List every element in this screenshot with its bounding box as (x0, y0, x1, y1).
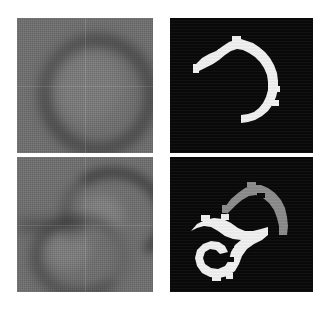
mask-white-notch-1 (201, 215, 210, 221)
mask-notch-4 (272, 100, 279, 106)
mask-white-notch-4 (226, 273, 233, 279)
column-separator (153, 18, 170, 292)
mask-shapes-svg (169, 18, 313, 153)
mask-notch-3 (273, 86, 280, 92)
mask-canvas (169, 157, 313, 292)
mask-notch-2 (232, 36, 241, 41)
mask-white-notch-2 (221, 214, 229, 220)
row-separator-right (169, 153, 313, 157)
mask-notch-1 (218, 49, 225, 54)
panel-top-left-grayscale-scan[interactable] (17, 18, 153, 153)
mask-canvas (169, 18, 313, 153)
figure-container (0, 0, 329, 311)
panel-top-right-binary-mask[interactable] (169, 18, 313, 153)
grayscale-canvas (17, 18, 153, 153)
reticle-horizontal-line (17, 225, 153, 226)
mask-gray-notch-3 (222, 205, 228, 213)
panel-bottom-left-grayscale-scan[interactable] (17, 157, 153, 292)
reticle-horizontal-line (17, 86, 153, 87)
mask-gray-notch-2 (257, 193, 265, 198)
mask-shapes-svg (169, 157, 313, 292)
panel-bottom-right-binary-mask[interactable] (169, 157, 313, 292)
mask-white-notch-6 (226, 257, 234, 262)
mask-white-notch-3 (212, 275, 221, 281)
mask-notch-5 (193, 64, 199, 73)
row-separator-left (17, 153, 153, 157)
mask-white-notch-5 (226, 243, 234, 248)
mask-gray-notch-1 (247, 182, 256, 187)
mask-region-white-crescent (195, 39, 278, 123)
grayscale-canvas (17, 157, 153, 292)
